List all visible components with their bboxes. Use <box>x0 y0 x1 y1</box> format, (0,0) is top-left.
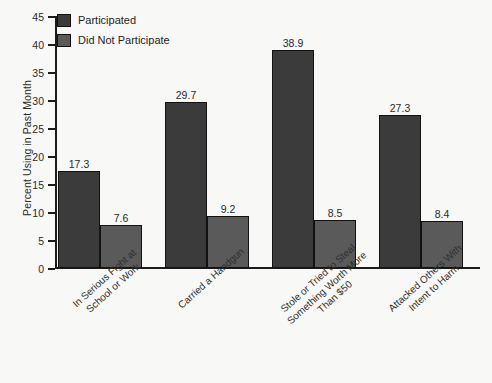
y-axis-tick: 45 <box>48 16 55 18</box>
y-axis-tick-label: 15 <box>32 179 44 191</box>
y-axis-tick: 30 <box>48 100 55 102</box>
bar-chart: Percent Using in Past Month 051015202530… <box>0 0 492 383</box>
bar: 27.3 <box>379 115 421 268</box>
bar: 17.3 <box>58 171 100 268</box>
bar-value-label: 38.9 <box>283 37 303 49</box>
bar-value-label: 29.7 <box>176 89 196 101</box>
y-axis-tick-label: 40 <box>32 39 44 51</box>
y-axis-tick: 20 <box>48 156 55 158</box>
y-axis-tick-label: 30 <box>32 95 44 107</box>
y-axis-tick-label: 0 <box>38 263 44 275</box>
y-axis-tick-label: 20 <box>32 151 44 163</box>
y-axis-tick-label: 10 <box>32 207 44 219</box>
bar-value-label: 17.3 <box>69 158 89 170</box>
bar-value-label: 8.5 <box>328 207 343 219</box>
y-axis-tick: 5 <box>48 240 55 242</box>
plot-area: 17.37.629.79.238.98.527.38.4 <box>57 16 480 268</box>
y-axis-tick-label: 25 <box>32 123 44 135</box>
y-axis-tick: 15 <box>48 184 55 186</box>
y-axis-tick: 40 <box>48 44 55 46</box>
y-axis-tick: 35 <box>48 72 55 74</box>
bar: 38.9 <box>272 50 314 268</box>
bar-value-label: 8.4 <box>435 208 450 220</box>
y-axis-tick-label: 45 <box>32 11 44 23</box>
bar-value-label: 9.2 <box>221 203 236 215</box>
y-axis-tick: 25 <box>48 128 55 130</box>
bar: 29.7 <box>165 102 207 268</box>
y-axis-tick: 10 <box>48 212 55 214</box>
y-axis-tick-label: 35 <box>32 67 44 79</box>
bar-value-label: 27.3 <box>390 102 410 114</box>
y-axis-tick: 0 <box>48 268 55 270</box>
bar-value-label: 7.6 <box>114 212 129 224</box>
bars-container: 17.37.629.79.238.98.527.38.4 <box>57 16 480 268</box>
y-axis-title: Percent Using in Past Month <box>21 48 33 248</box>
y-axis-tick-label: 5 <box>38 235 44 247</box>
